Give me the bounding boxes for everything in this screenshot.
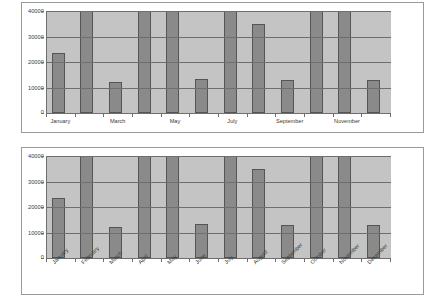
x-tick-mark	[275, 114, 276, 117]
chart-2-y-axis: 010000200003000040000	[2, 156, 44, 259]
y-tick-mark	[41, 258, 44, 259]
gridline	[47, 62, 391, 63]
x-tick-mark	[103, 114, 104, 117]
x-tick-mark	[161, 114, 162, 117]
y-tick-label: 0	[41, 254, 44, 260]
x-tick-mark	[46, 114, 47, 117]
charts-page: 010000200003000040000 JanuaryMarchMayJul…	[0, 0, 442, 300]
x-tick-label: November	[334, 118, 360, 124]
gridline	[47, 233, 391, 234]
chart-1-y-axis: 010000200003000040000	[2, 11, 44, 114]
y-tick-mark	[41, 11, 44, 12]
bar	[367, 80, 380, 113]
x-tick-mark	[189, 114, 190, 117]
bar	[109, 82, 122, 113]
gridline	[47, 11, 391, 12]
y-tick-mark	[41, 88, 44, 89]
x-tick-mark	[390, 114, 391, 117]
x-tick-mark	[75, 114, 76, 117]
x-tick-mark	[132, 114, 133, 117]
chart-2-x-axis-labels: JanuaryFebruaryMarchAprilMayJuneJulyAugu…	[46, 261, 391, 295]
y-tick-label: 0	[41, 109, 44, 115]
bar	[281, 80, 294, 113]
y-tick-mark	[41, 62, 44, 63]
x-tick-label: May	[170, 118, 181, 124]
x-tick-mark	[247, 114, 248, 117]
y-tick-mark	[41, 156, 44, 157]
gridline	[47, 207, 391, 208]
y-tick-mark	[41, 113, 44, 114]
chart-1-x-axis-labels: JanuaryMarchMayJulySeptemberNovember	[46, 118, 391, 130]
x-tick-label: January	[50, 118, 70, 124]
gridline	[47, 37, 391, 38]
gridline	[47, 182, 391, 183]
x-tick-label: September	[276, 118, 303, 124]
x-tick-mark	[333, 114, 334, 117]
x-tick-label: March	[110, 118, 126, 124]
x-tick-mark	[304, 114, 305, 117]
x-tick-label: July	[227, 118, 237, 124]
gridline	[47, 88, 391, 89]
chart-1-plot-area	[46, 11, 391, 114]
gridline	[47, 156, 391, 157]
y-tick-mark	[41, 37, 44, 38]
x-tick-mark	[361, 114, 362, 117]
x-tick-mark	[218, 114, 219, 117]
y-tick-mark	[41, 182, 44, 183]
y-tick-mark	[41, 233, 44, 234]
bar	[195, 79, 208, 113]
chart-2-plot-area	[46, 156, 391, 259]
y-tick-mark	[41, 207, 44, 208]
